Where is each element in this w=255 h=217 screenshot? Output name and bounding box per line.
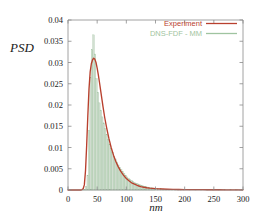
x-tick-label: 100	[120, 194, 133, 204]
y-tick-label: 0	[59, 185, 63, 195]
x-tick-label: 50	[93, 194, 102, 204]
histogram-bar	[102, 117, 103, 190]
histogram-bar	[87, 175, 88, 190]
x-tick-label: 250	[207, 194, 220, 204]
y-tick-label: 0.02	[48, 100, 63, 110]
histogram-bar	[110, 148, 111, 190]
histogram-bar	[88, 131, 89, 191]
histogram-bar	[107, 139, 108, 190]
y-tick-label: 0.025	[44, 79, 63, 89]
y-tick-label: 0.015	[44, 121, 63, 131]
histogram-bar	[99, 103, 100, 190]
y-tick-label: 0.01	[48, 143, 63, 153]
y-axis-label: PSD	[9, 40, 34, 55]
legend-label: Experiment	[164, 19, 203, 28]
histogram-bar	[86, 187, 87, 190]
x-tick-label: 200	[178, 194, 191, 204]
y-tick-label: 0.03	[48, 58, 63, 68]
histogram-bar	[100, 110, 101, 190]
histogram-bar	[115, 159, 116, 190]
x-tick-label: 0	[66, 194, 70, 204]
y-tick-label: 0.005	[44, 164, 63, 174]
histogram-bar	[112, 152, 113, 190]
legend-label: DNS-FDF - MM	[150, 29, 202, 38]
chart-figure-container: 00.0050.010.0150.020.0250.030.0350.04 05…	[0, 0, 255, 217]
x-axis-label: nm	[149, 201, 163, 213]
histogram-bar	[96, 79, 97, 190]
histogram-bar	[113, 156, 114, 190]
y-tick-label: 0.035	[44, 36, 63, 46]
histogram-bar	[90, 77, 91, 190]
histogram-bar	[94, 54, 95, 190]
histogram-bar	[97, 92, 98, 190]
histogram-bar	[106, 134, 107, 190]
histogram-bar	[91, 50, 92, 190]
x-tick-label: 300	[237, 194, 250, 204]
y-tick-label: 0.04	[48, 15, 64, 25]
psd-distribution-chart: 00.0050.010.0150.020.0250.030.0350.04 05…	[0, 0, 255, 217]
histogram-bar	[104, 129, 105, 190]
histogram-bar	[103, 123, 104, 190]
histogram-bar	[109, 144, 110, 190]
